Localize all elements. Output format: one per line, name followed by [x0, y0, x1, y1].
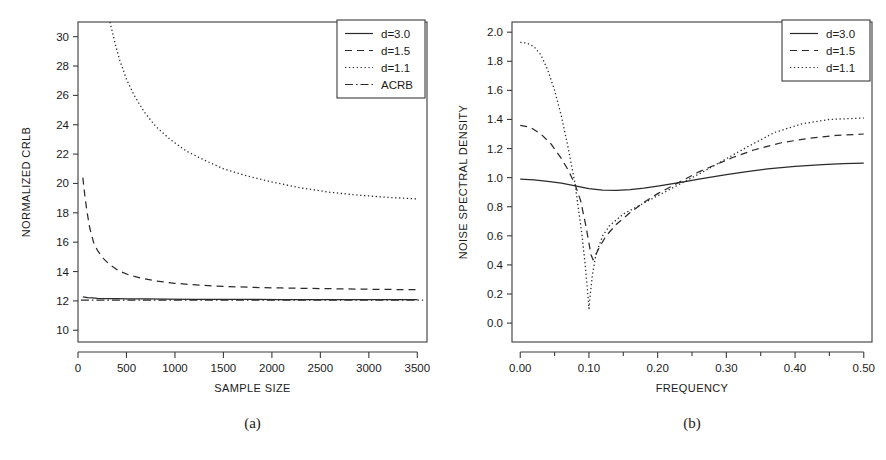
legend: d=3.0d=1.5d=1.1ACRB	[337, 20, 425, 98]
x-tick-label: 0.20	[646, 362, 668, 374]
legend: d=3.0d=1.5d=1.1	[782, 20, 870, 81]
x-tick-label: 2500	[308, 362, 334, 374]
y-tick-label: 22	[56, 148, 69, 160]
x-tick-label: 3000	[356, 362, 382, 374]
chart-b: 0.00.20.40.60.81.01.21.41.61.82.00.000.1…	[443, 0, 886, 460]
x-tick-label: 0.30	[715, 362, 737, 374]
y-tick-label: 0.2	[487, 288, 503, 300]
x-tick-label: 0.50	[853, 362, 875, 374]
y-tick-label: 12	[56, 295, 69, 307]
y-tick-label: 10	[56, 324, 69, 336]
x-axis-title: SAMPLE SIZE	[214, 382, 291, 394]
x-axis: 0500100015002000250030003500	[75, 352, 430, 374]
y-tick-label: 0.8	[487, 201, 503, 213]
x-tick-label: 0.10	[578, 362, 600, 374]
y-axis-title: NORMALIZED CRLB	[20, 127, 32, 238]
x-tick-label: 0	[75, 362, 81, 374]
chart-a: 1012141618202224262830050010001500200025…	[0, 0, 443, 460]
y-tick-label: 1.8	[487, 55, 503, 67]
legend-label-d15: d=1.5	[826, 45, 855, 57]
panel-b: 0.00.20.40.60.81.01.21.41.61.82.00.000.1…	[443, 0, 886, 460]
x-tick-label: 0.00	[509, 362, 531, 374]
y-tick-label: 1.6	[487, 84, 503, 96]
legend-label-d30: d=3.0	[826, 28, 855, 40]
y-tick-label: 30	[56, 31, 69, 43]
y-axis: 0.00.20.40.60.81.01.21.41.61.82.0	[487, 26, 512, 329]
legend-label-d15: d=1.5	[381, 45, 410, 57]
y-tick-label: 18	[56, 207, 69, 219]
x-axis-title: FREQUENCY	[656, 382, 729, 394]
series-line-d11	[520, 42, 864, 308]
x-tick-label: 1500	[211, 362, 237, 374]
y-tick-label: 0.4	[487, 259, 504, 271]
y-axis: 1012141618202224262830	[56, 31, 78, 337]
legend-label-d11: d=1.1	[381, 62, 410, 74]
x-tick-label: 3500	[405, 362, 431, 374]
y-tick-label: 28	[56, 60, 69, 72]
series-line-d30	[83, 297, 417, 300]
legend-label-d30: d=3.0	[381, 28, 410, 40]
y-tick-label: 1.0	[487, 172, 503, 184]
legend-label-acrb: ACRB	[381, 79, 413, 91]
figure-container: 1012141618202224262830050010001500200025…	[0, 0, 886, 460]
y-axis-title: NOISE SPECTRAL DENSITY	[457, 104, 469, 259]
x-tick-label: 1000	[162, 362, 188, 374]
y-tick-label: 16	[56, 236, 69, 248]
panel-a: 1012141618202224262830050010001500200025…	[0, 0, 443, 460]
y-tick-label: 14	[56, 266, 69, 278]
panel-caption: (b)	[683, 415, 701, 432]
legend-label-d11: d=1.1	[826, 62, 855, 74]
panel-caption: (a)	[244, 415, 261, 432]
y-tick-label: 1.2	[487, 143, 503, 155]
y-tick-label: 0.6	[487, 230, 503, 242]
y-tick-label: 2.0	[487, 26, 503, 38]
x-axis: 0.000.100.200.300.400.50	[509, 352, 875, 374]
x-tick-label: 2000	[259, 362, 285, 374]
y-tick-label: 24	[56, 119, 69, 131]
y-tick-label: 26	[56, 89, 69, 101]
series-line-d15	[83, 178, 417, 290]
y-tick-label: 0.0	[487, 317, 503, 329]
series-line-d15	[520, 125, 864, 260]
y-tick-label: 1.4	[487, 113, 504, 125]
series-group	[520, 42, 864, 308]
y-tick-label: 20	[56, 177, 69, 189]
x-tick-label: 500	[117, 362, 136, 374]
x-tick-label: 0.40	[784, 362, 806, 374]
